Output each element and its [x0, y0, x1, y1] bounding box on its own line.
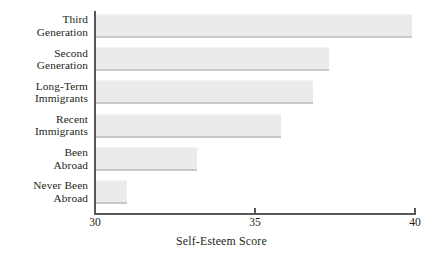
bar-been-abroad [95, 147, 197, 171]
y-axis-label-line: Never Been [0, 179, 88, 191]
x-tick-40 [414, 208, 415, 214]
x-tick-35 [254, 208, 255, 214]
y-axis-label-recent-immigrants: RecentImmigrants [0, 113, 88, 138]
y-axis-label-never-been-abroad: Never BeenAbroad [0, 179, 88, 204]
x-tick-label-35: 35 [235, 216, 275, 229]
y-axis-label-line: Immigrants [0, 125, 88, 137]
y-axis-line [94, 11, 96, 214]
x-tick-label-40: 40 [395, 216, 435, 229]
x-tick-30 [94, 208, 95, 214]
y-axis-label-line: Abroad [0, 192, 88, 204]
y-axis-label-been-abroad: BeenAbroad [0, 146, 88, 171]
y-axis-label-third-generation: ThirdGeneration [0, 13, 88, 38]
y-axis-label-line: Generation [0, 59, 88, 71]
bar-never-been-abroad [95, 180, 127, 204]
y-axis-label-line: Been [0, 146, 88, 158]
bar-row [95, 14, 415, 38]
bar-second-generation [95, 47, 329, 71]
plot-area [95, 12, 415, 213]
y-axis-category-labels: ThirdGenerationSecondGenerationLong-Term… [0, 12, 88, 213]
y-axis-label-line: Second [0, 47, 88, 59]
y-axis-label-line: Long-Term [0, 80, 88, 92]
bar-row [95, 47, 415, 71]
y-axis-label-long-term-immigrants: Long-TermImmigrants [0, 80, 88, 105]
y-axis-label-line: Third [0, 13, 88, 25]
y-axis-label-line: Abroad [0, 159, 88, 171]
y-axis-label-line: Immigrants [0, 92, 88, 104]
bar-long-term-immigrants [95, 80, 313, 104]
bar-chart-figure: ThirdGenerationSecondGenerationLong-Term… [0, 0, 443, 260]
bar-recent-immigrants [95, 114, 281, 138]
bar-third-generation [95, 14, 412, 38]
bar-row [95, 180, 415, 204]
x-tick-label-30: 30 [75, 216, 115, 229]
bar-row [95, 114, 415, 138]
x-axis-title: Self-Esteem Score [0, 234, 443, 249]
bar-row [95, 80, 415, 104]
bar-row [95, 147, 415, 171]
y-axis-label-second-generation: SecondGeneration [0, 47, 88, 72]
y-axis-label-line: Generation [0, 26, 88, 38]
y-axis-label-line: Recent [0, 113, 88, 125]
